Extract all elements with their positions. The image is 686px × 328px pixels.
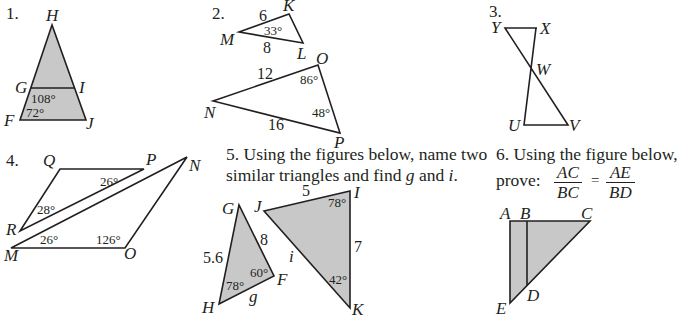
- vertex-u: U: [508, 116, 522, 135]
- side-gf: 8: [260, 231, 268, 248]
- problem-5-line-1: 5. Using the figures below, name two: [226, 144, 487, 165]
- side-mk: 6: [259, 7, 267, 24]
- vertex-o: O: [124, 244, 136, 263]
- angle-78-i: 78°: [328, 195, 346, 210]
- side-jk-i: i: [289, 247, 294, 266]
- fraction-right-denominator: BD: [606, 183, 635, 202]
- side-gh: 5.6: [203, 249, 223, 266]
- angle-60: 60°: [250, 265, 268, 280]
- vertex-k: K: [282, 0, 296, 15]
- problem-5-line-2-text: similar triangles and find: [226, 165, 406, 185]
- vertex-e: E: [495, 299, 507, 318]
- equals-sign: =: [591, 172, 599, 189]
- and-text: and: [415, 165, 449, 185]
- fraction-left-denominator: BC: [554, 183, 582, 202]
- side-np: 16: [268, 116, 284, 133]
- vertex-w: W: [536, 60, 552, 79]
- problem-2-number: 2.: [212, 4, 225, 23]
- triangle-ace: [510, 221, 590, 303]
- side-ik: 7: [354, 238, 362, 255]
- side-no: 12: [257, 65, 273, 82]
- vertex-i: I: [78, 78, 86, 97]
- angle-26-p: 26°: [100, 174, 118, 189]
- problem-6-line-1: 6. Using the figure below,: [496, 144, 678, 165]
- problem-2-figure: 2. K M L 6 8 33° O N P 12 16 86° 48°: [203, 0, 344, 152]
- vertex-r: R: [5, 220, 17, 239]
- vertex-y: Y: [491, 18, 502, 37]
- vertex-f: F: [276, 270, 288, 289]
- angle-72: 72°: [26, 105, 44, 120]
- vertex-v: V: [569, 116, 582, 135]
- vertex-j: J: [86, 114, 95, 133]
- angle-28: 28°: [37, 202, 55, 217]
- vertex-p: P: [145, 150, 156, 169]
- vertex-o: O: [316, 49, 328, 68]
- vertex-m: M: [219, 30, 235, 49]
- problem-3-figure: 3. Y X W U V: [489, 2, 582, 135]
- fraction-ae-bd: AE BD: [606, 163, 635, 202]
- fraction-ac-bc: AC BC: [554, 163, 582, 202]
- angle-33: 33°: [264, 23, 282, 38]
- vertex-a: A: [499, 204, 511, 223]
- vertex-g: G: [222, 199, 234, 218]
- vertex-n: N: [203, 103, 217, 122]
- period: .: [453, 165, 457, 185]
- vertex-h: H: [201, 298, 216, 317]
- angle-108: 108°: [31, 91, 56, 106]
- side-ml: 8: [263, 39, 271, 56]
- vertex-f: F: [3, 111, 15, 130]
- vertex-d: D: [526, 286, 540, 305]
- vertex-c: C: [581, 204, 593, 223]
- vertex-x: X: [539, 19, 551, 38]
- vertex-l: L: [296, 44, 306, 63]
- problem-6-figure: A B C D E: [495, 204, 593, 318]
- vertex-m: M: [3, 246, 19, 265]
- problem-5-figure: G H F J I K 5.6 8 g 5 7 i 78° 60° 78° 42…: [201, 182, 365, 319]
- problem-6-prove-label: prove:: [496, 170, 541, 191]
- vertex-j: J: [254, 197, 263, 216]
- vertex-n: N: [188, 156, 202, 175]
- angle-42: 42°: [329, 272, 347, 287]
- triangle-qpr: [20, 169, 144, 231]
- vertex-g: G: [15, 78, 27, 97]
- angle-86: 86°: [300, 72, 318, 87]
- problem-1-number: 1.: [6, 4, 19, 23]
- angle-78-h: 78°: [226, 278, 244, 293]
- vertex-k: K: [351, 300, 365, 319]
- side-hf-g: g: [249, 287, 258, 306]
- fraction-right-numerator: AE: [606, 163, 635, 183]
- problem-4-figure: 4. Q P N R M O 26° 28° 26° 126°: [3, 150, 202, 265]
- problem-4-number: 4.: [6, 151, 19, 170]
- vertex-b: B: [520, 204, 531, 223]
- fraction-left-numerator: AC: [554, 163, 582, 183]
- problem-5-line-2: similar triangles and find g and i.: [226, 165, 458, 186]
- vertex-h: H: [45, 6, 60, 25]
- problem-1-figure: 1. H G I F J 108° 72°: [3, 4, 95, 133]
- angle-126: 126°: [96, 232, 121, 247]
- var-g: g: [406, 165, 415, 185]
- vertex-q: Q: [43, 151, 55, 170]
- angle-26-m: 26°: [40, 232, 58, 247]
- angle-48: 48°: [312, 105, 330, 120]
